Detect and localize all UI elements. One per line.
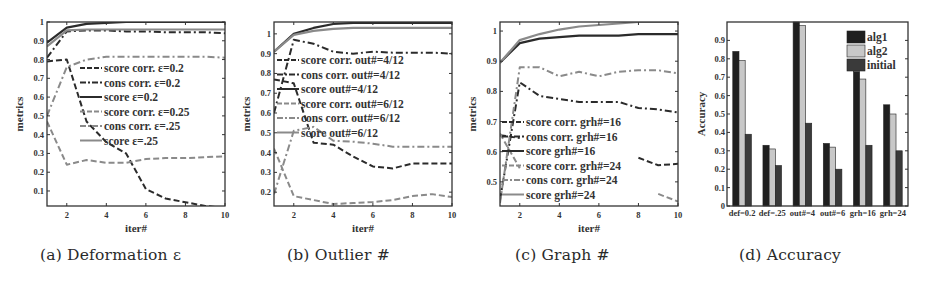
- legend-label: score corr. grh#=24: [526, 160, 621, 173]
- x-tick-label: 6: [144, 210, 148, 220]
- x-tick-label: 10: [448, 210, 457, 220]
- y-tick-label: 0.7: [260, 88, 271, 98]
- line-chart-b: 0.20.30.40.50.60.70.80.91246810iter#metr…: [231, 0, 462, 240]
- y-tick-label: 0.6: [33, 92, 44, 102]
- x-tick-label: 10: [674, 210, 683, 220]
- caption-b: (b) Outlier #: [287, 246, 390, 264]
- y-tick-label: 0.5: [486, 177, 497, 187]
- x-axis-label: iter#: [578, 222, 600, 234]
- bar-chart-d: def=0.2def=.25out#=4out#=6grh=16grh=2400…: [693, 0, 926, 240]
- subplot-d-accuracy: def=0.2def=.25out#=4out#=6grh=16grh=2400…: [693, 0, 926, 285]
- subplot-c-graph: 0.50.60.70.80.91246810iter#metricsscore …: [462, 0, 693, 285]
- bar-initial: [836, 169, 842, 206]
- bar-alg1: [763, 145, 769, 206]
- y-tick-label: 0.3: [33, 148, 44, 158]
- y-tick-label: 0.7: [33, 73, 44, 83]
- y-tick-label: 0.7: [486, 117, 497, 127]
- y-tick-label: 0.5: [33, 111, 44, 121]
- legend-label: score grh#=16: [526, 145, 596, 158]
- bar-alg1: [823, 143, 829, 206]
- bar-initial: [806, 123, 812, 206]
- x-category-label: grh=24: [880, 208, 907, 218]
- y-tick-label: 0.1: [33, 186, 44, 196]
- y-axis-label: metrics: [13, 96, 25, 132]
- legend: score corr. grh#=16cons corr. grh#=16sco…: [502, 116, 621, 202]
- line-chart-a: 0.10.20.30.40.50.60.70.80.91246810iter#m…: [0, 0, 231, 240]
- bar-initial: [775, 166, 781, 206]
- x-tick-label: 2: [518, 210, 522, 220]
- x-tick-label: 2: [65, 210, 69, 220]
- bar-alg2: [890, 114, 896, 206]
- y-tick-label: 0.7: [714, 72, 725, 82]
- y-tick-label: 1: [493, 26, 497, 36]
- x-tick-label: 8: [636, 210, 640, 220]
- legend-label: alg1: [867, 31, 888, 44]
- legend-label: score out#=4/12: [301, 83, 378, 95]
- legend-label: initial: [867, 59, 896, 71]
- y-tick-label: 0.4: [714, 127, 725, 137]
- legend-label: score corr. ε=0.25: [104, 106, 190, 118]
- legend: alg1alg2initial: [847, 31, 896, 71]
- bar-alg2: [860, 79, 866, 206]
- caption-a: (a) Deformation ε: [40, 246, 181, 264]
- legend-label: score ε=0.2: [104, 91, 158, 103]
- line-chart-c: 0.50.60.70.80.91246810iter#metricsscore …: [462, 0, 693, 240]
- x-tick-label: 8: [183, 210, 187, 220]
- x-tick-label: 4: [331, 210, 336, 220]
- bar-initial: [896, 151, 902, 206]
- x-tick-label: 4: [104, 210, 109, 220]
- y-tick-label: 1: [40, 17, 44, 27]
- y-tick-label: 0.5: [260, 128, 271, 138]
- legend-label: score corr. out#=6/12: [301, 98, 404, 110]
- legend-label: cons corr. ε=.25: [104, 120, 180, 132]
- legend-swatch: [847, 59, 865, 71]
- y-tick-label: 0.8: [33, 55, 44, 65]
- y-tick-label: 0.6: [714, 91, 725, 101]
- y-tick-label: 0.4: [260, 148, 271, 158]
- bar-alg1: [884, 105, 890, 206]
- subplot-b-outlier: 0.20.30.40.50.60.70.80.91246810iter#metr…: [231, 0, 462, 285]
- bar-alg2: [829, 147, 835, 206]
- caption-c: (c) Graph #: [515, 246, 610, 264]
- legend-label: score corr. grh#=16: [526, 116, 621, 129]
- y-tick-label: 0.2: [33, 167, 44, 177]
- legend-label: score grh#=24: [526, 189, 596, 202]
- bar-initial: [866, 145, 872, 206]
- legend-label: alg2: [867, 45, 888, 58]
- x-tick-label: 4: [557, 210, 562, 220]
- y-tick-label: 0.6: [260, 108, 271, 118]
- x-tick-label: 10: [221, 210, 230, 220]
- legend-label: cons corr. out#=4/12: [301, 69, 400, 81]
- legend-swatch: [847, 31, 865, 43]
- x-tick-label: 6: [371, 210, 375, 220]
- legend-label: cons corr. out#=6/12: [301, 112, 400, 124]
- series-line: [47, 30, 225, 47]
- caption-d: (d) Accuracy: [739, 246, 841, 264]
- legend-label: score corr. out#=4/12: [301, 54, 404, 66]
- legend-label: score out#=6/12: [301, 127, 378, 139]
- x-tick-label: 6: [597, 210, 601, 220]
- y-tick-label: 0.2: [714, 164, 725, 174]
- legend-label: score corr. ε=0.2: [104, 62, 184, 74]
- y-tick-label: 0.9: [486, 56, 497, 66]
- y-tick-label: 0.8: [714, 54, 725, 64]
- legend: score corr. out#=4/12cons corr. out#=4/1…: [277, 54, 404, 139]
- x-category-label: def=0.2: [729, 208, 756, 218]
- bar-alg1: [733, 51, 739, 206]
- y-tick-label: 0.8: [486, 86, 497, 96]
- series-line: [47, 30, 225, 57]
- y-tick-label: 0.2: [260, 187, 271, 197]
- x-axis-label: iter#: [352, 222, 374, 234]
- x-tick-label: 8: [410, 210, 414, 220]
- legend-label: score ε=.25: [104, 135, 158, 147]
- y-tick-label: 0.9: [260, 49, 271, 59]
- legend: score corr. ε=0.2cons corr. ε=0.2score ε…: [80, 62, 190, 147]
- y-axis-label: Accuracy: [695, 91, 707, 136]
- y-axis-label: metrics: [466, 96, 478, 132]
- y-tick-label: 0.9: [33, 36, 44, 46]
- series-line: [47, 22, 225, 43]
- y-tick-label: 0.6: [486, 147, 497, 157]
- bar-alg2: [769, 149, 775, 206]
- y-tick-label: 0.8: [260, 68, 271, 78]
- legend-swatch: [847, 45, 865, 57]
